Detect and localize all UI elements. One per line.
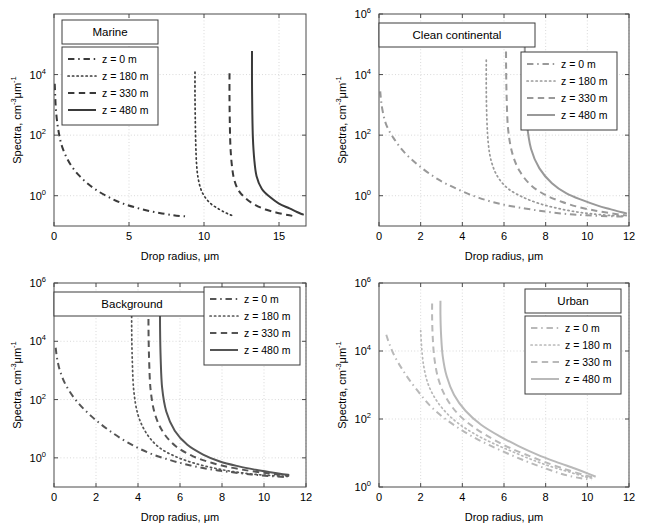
x-tick-label: 10 (258, 491, 270, 503)
y-tick-label: 100 (355, 479, 371, 493)
x-tick-label: 0 (51, 230, 57, 242)
x-tick-label: 6 (501, 491, 507, 503)
y-tick-label: 102 (30, 392, 46, 406)
x-tick-label: 2 (93, 491, 99, 503)
x-tick-label: 2 (418, 230, 424, 242)
panel-marine: 051015100102104Drop radius, μmSpectra, c… (0, 0, 322, 268)
y-tick-label: 102 (30, 127, 46, 141)
legend-label: z = 0 m (244, 293, 279, 305)
panel-background: 024681012100102104106Drop radius, μmSpec… (0, 269, 322, 529)
legend-label: z = 330 m (561, 92, 608, 104)
y-tick-label: 104 (30, 333, 46, 347)
y-tick-label: 100 (30, 450, 46, 464)
y-tick-label: 100 (355, 188, 371, 202)
y-axis-title: Spectra, cm-3μm-1 (9, 76, 23, 164)
panel-urban: 024681012100102104106Drop radius, μmSpec… (323, 269, 645, 529)
y-tick-label: 106 (30, 275, 46, 289)
x-tick-label: 0 (51, 491, 57, 503)
x-tick-label: 10 (581, 230, 593, 242)
x-tick-label: 4 (459, 230, 465, 242)
legend-label: z = 0 m (565, 322, 600, 334)
y-tick-label: 100 (30, 188, 46, 202)
panel-clean-continental: 024681012100102104106Drop radius, μmSpec… (323, 0, 645, 268)
x-tick-label: 0 (376, 491, 382, 503)
x-tick-label: 8 (543, 491, 549, 503)
legend-label: z = 180 m (565, 339, 612, 351)
x-axis-title: Drop radius, μm (465, 511, 543, 523)
x-tick-label: 12 (623, 230, 635, 242)
x-tick-label: 6 (177, 491, 183, 503)
x-tick-label: 10 (198, 230, 210, 242)
y-tick-label: 104 (30, 67, 46, 81)
legend-label: z = 480 m (561, 109, 608, 121)
legend-label: z = 330 m (244, 327, 291, 339)
x-tick-label: 2 (418, 491, 424, 503)
legend-label: z = 0 m (561, 58, 596, 70)
y-tick-label: 106 (355, 6, 371, 20)
y-tick-label: 106 (355, 275, 371, 289)
y-axis-title: Spectra, cm-3μm-1 (9, 341, 23, 429)
legend-box: z = 0 mz = 180 mz = 330 mz = 480 m (204, 287, 300, 365)
legend-label: z = 0 m (102, 53, 137, 65)
panel-title-box: Background (54, 292, 210, 316)
y-tick-label: 102 (355, 411, 371, 425)
x-axis-title: Drop radius, μm (141, 250, 219, 262)
legend-label: z = 330 m (102, 87, 149, 99)
x-tick-label: 12 (623, 491, 635, 503)
panel-title: Urban (557, 295, 588, 307)
y-tick-label: 104 (355, 67, 371, 81)
panel-title: Background (101, 298, 162, 310)
y-axis-title: Spectra, cm-3μm-1 (334, 341, 348, 429)
legend-label: z = 180 m (102, 70, 149, 82)
x-tick-label: 12 (300, 491, 312, 503)
x-tick-label: 10 (581, 491, 593, 503)
panel-title: Clean continental (413, 29, 502, 41)
legend-label: z = 480 m (565, 373, 612, 385)
panel-title-box: Urban (525, 289, 621, 313)
figure-canvas: 051015100102104Drop radius, μmSpectra, c… (0, 0, 645, 529)
x-axis-title: Drop radius, μm (465, 250, 543, 262)
legend-box: z = 0 mz = 180 mz = 330 mz = 480 m (525, 316, 621, 394)
legend-box: z = 0 mz = 180 mz = 330 mz = 480 m (521, 52, 617, 130)
y-axis-title: Spectra, cm-3μm-1 (334, 76, 348, 164)
legend-label: z = 180 m (244, 310, 291, 322)
x-tick-label: 8 (219, 491, 225, 503)
panel-title-box: Marine (62, 20, 158, 44)
x-tick-label: 5 (126, 230, 132, 242)
legend-label: z = 480 m (244, 344, 291, 356)
panel-title: Marine (92, 26, 127, 38)
y-tick-label: 104 (355, 343, 371, 357)
panel-title-box: Clean continental (379, 23, 535, 47)
legend-label: z = 180 m (561, 75, 608, 87)
legend-label: z = 330 m (565, 356, 612, 368)
x-tick-label: 8 (543, 230, 549, 242)
legend-box: z = 0 mz = 180 mz = 330 mz = 480 m (62, 47, 158, 125)
legend-label: z = 480 m (102, 104, 149, 116)
x-tick-label: 6 (501, 230, 507, 242)
x-tick-label: 4 (459, 491, 465, 503)
x-tick-label: 0 (376, 230, 382, 242)
x-axis-title: Drop radius, μm (141, 511, 219, 523)
x-tick-label: 4 (135, 491, 141, 503)
x-tick-label: 15 (273, 230, 285, 242)
y-tick-label: 102 (355, 127, 371, 141)
